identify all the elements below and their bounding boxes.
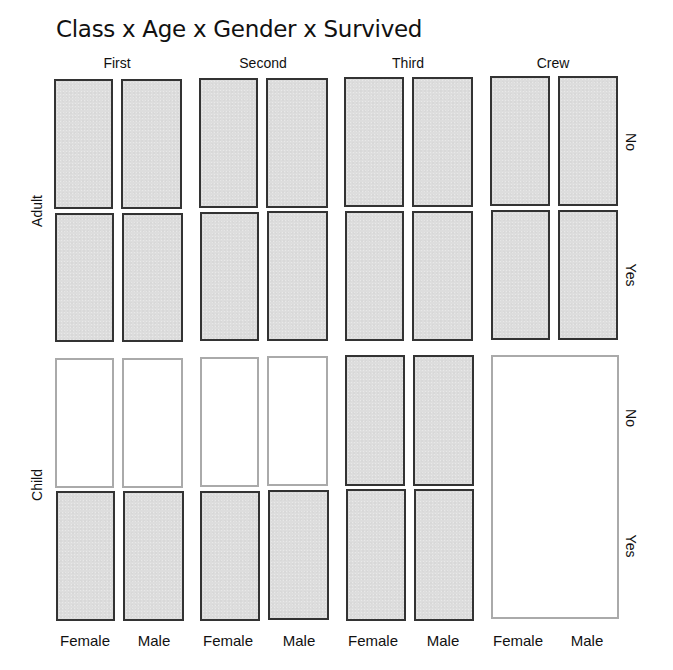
bottom-label-crew-male: Male (571, 632, 604, 649)
bottom-label-second-male: Male (283, 632, 316, 649)
cell-first-adult-female-yes (55, 213, 114, 342)
bottom-label-second-female: Female (203, 632, 253, 649)
column-label-first: First (103, 55, 130, 71)
cell-second-adult-female-yes (200, 212, 259, 341)
cell-second-child-female-no (200, 357, 259, 487)
bottom-label-crew-female: Female (493, 632, 543, 649)
cell-first-adult-male-no (121, 79, 182, 209)
cell-crew-adult-female-no (490, 76, 550, 206)
cell-third-child-male-no (413, 355, 474, 486)
mosaic-chart: Class x Age x Gender x Survived First Se… (0, 0, 673, 670)
row-label-adult-yes: Yes (623, 264, 639, 287)
cell-first-adult-male-yes (122, 213, 183, 342)
cell-third-child-male-yes (414, 489, 474, 621)
cell-first-child-female-no (55, 358, 114, 488)
cell-third-adult-male-yes (412, 211, 473, 341)
bottom-label-first-male: Male (138, 632, 171, 649)
cell-second-adult-male-no (266, 78, 328, 208)
cell-first-adult-female-no (54, 79, 113, 209)
bottom-label-first-female: Female (60, 632, 110, 649)
cell-crew-child-empty (491, 355, 619, 619)
chart-title: Class x Age x Gender x Survived (56, 16, 422, 42)
cell-second-child-male-yes (268, 490, 329, 620)
cell-crew-adult-female-yes (491, 210, 550, 340)
column-label-crew: Crew (537, 55, 570, 71)
bottom-label-third-male: Male (427, 632, 460, 649)
row-label-child-no: No (623, 409, 639, 427)
cell-crew-adult-male-yes (558, 210, 618, 340)
cell-third-adult-male-no (412, 77, 473, 207)
column-label-third: Third (392, 55, 424, 71)
cell-third-child-female-no (345, 355, 405, 486)
cell-third-adult-female-no (344, 77, 404, 207)
row-label-child: Child (29, 469, 45, 501)
cell-second-adult-female-no (199, 78, 258, 208)
cell-crew-adult-male-no (558, 76, 618, 206)
row-label-adult-no: No (623, 133, 639, 151)
cell-second-child-female-yes (200, 491, 260, 621)
cell-first-child-male-no (122, 358, 183, 488)
column-label-second: Second (239, 55, 286, 71)
row-label-adult: Adult (29, 195, 45, 227)
cell-first-child-male-yes (123, 491, 184, 621)
cell-third-adult-female-yes (345, 211, 404, 341)
bottom-label-third-female: Female (348, 632, 398, 649)
cell-second-adult-male-yes (267, 211, 328, 341)
cell-first-child-female-yes (56, 491, 115, 621)
cell-second-child-male-no (267, 356, 328, 486)
cell-third-child-female-yes (346, 489, 406, 621)
row-label-child-yes: Yes (623, 535, 639, 558)
